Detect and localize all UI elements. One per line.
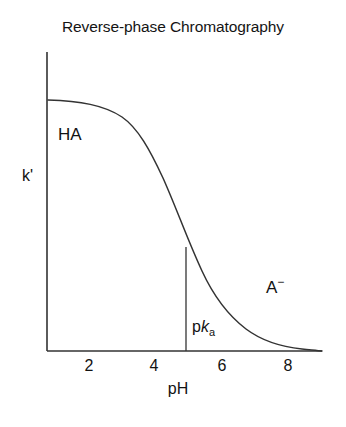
x-tick-label-2: 2 — [77, 357, 101, 375]
region-label-a-minus-charge: − — [277, 275, 284, 289]
region-label-a-minus-base: A — [266, 278, 277, 297]
x-tick-label-8: 8 — [276, 357, 300, 375]
x-tick-label-4: 4 — [142, 357, 166, 375]
pka-annotation-label: pka — [192, 318, 215, 338]
y-axis-title: k' — [22, 167, 33, 185]
pka-prefix: p — [192, 318, 201, 335]
chromatography-figure: Reverse-phase Chromatography 2 4 6 8 pH … — [0, 0, 346, 427]
pka-italic-k: k — [201, 318, 209, 335]
region-label-a-minus: A− — [266, 275, 284, 298]
region-label-ha: HA — [58, 125, 82, 145]
pka-subscript-a: a — [209, 326, 215, 338]
x-axis-title: pH — [138, 380, 218, 398]
x-tick-label-6: 6 — [210, 357, 234, 375]
retention-curve — [48, 100, 322, 351]
